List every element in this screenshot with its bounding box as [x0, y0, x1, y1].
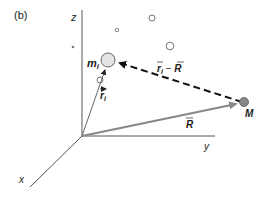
- x-axis-label: x: [18, 174, 25, 185]
- relative-vector-label: ri − R: [157, 62, 184, 75]
- svg-text:ri: ri: [100, 90, 107, 102]
- center-of-mass-point: [240, 98, 249, 107]
- y-axis-label: y: [203, 141, 210, 152]
- position-vector-label: ri: [100, 89, 107, 102]
- z-axis-label: z: [70, 11, 77, 23]
- particle-dot: [72, 46, 75, 49]
- panel-label: (b): [14, 9, 27, 21]
- svg-text:R: R: [186, 119, 194, 130]
- particle-medium: [166, 42, 174, 50]
- R-vector-label: R: [186, 118, 194, 130]
- center-of-mass-diagram: (b) z y x mi ri ri − R R M: [0, 0, 267, 201]
- particle-medium: [149, 15, 155, 21]
- center-of-mass-vector-R: [82, 104, 236, 136]
- center-of-mass-label: M: [245, 108, 254, 119]
- particle-small: [115, 28, 119, 32]
- mass-label: mi: [87, 57, 100, 71]
- position-vector-ri: [82, 70, 105, 136]
- particle-mi: [101, 53, 115, 67]
- x-axis: [30, 136, 82, 187]
- svg-text:ri − R: ri − R: [157, 63, 182, 75]
